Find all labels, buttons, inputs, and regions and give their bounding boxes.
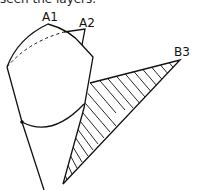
label-a1: A1 xyxy=(42,11,58,23)
vertex-dot xyxy=(20,120,24,124)
label-b3: B3 xyxy=(174,46,190,58)
label-a2: A2 xyxy=(79,17,95,29)
cone-diagram xyxy=(0,0,197,190)
hatched-triangle xyxy=(58,59,196,180)
